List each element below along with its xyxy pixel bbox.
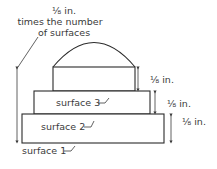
top-block (53, 67, 135, 91)
surface-2-label: surface 2 (41, 121, 85, 132)
top-note-line1: ⅛ in. (52, 5, 76, 16)
top-note-leader (18, 37, 38, 67)
top-note-line3: of surfaces (38, 27, 90, 38)
surface-3-label: surface 3 (56, 97, 100, 108)
top-note-line2: times the number (17, 16, 102, 27)
layered-surfaces-diagram: ⅛ in. times the number of surfaces surfa… (0, 0, 217, 169)
dimension-label-middle: ⅛ in. (167, 98, 191, 109)
dome-shape (53, 43, 135, 68)
dimension-label-top: ⅛ in. (150, 74, 174, 85)
dimension-label-bottom: ⅛ in. (182, 116, 206, 127)
surface-1-label: surface 1 (22, 145, 66, 156)
